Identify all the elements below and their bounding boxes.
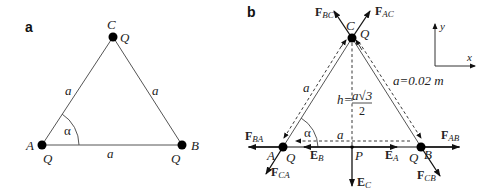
charge-c [109, 33, 118, 42]
charge-b-label: Q [171, 151, 181, 166]
height-label: h= [337, 92, 352, 107]
force-bc-label: FBC [315, 5, 335, 20]
point-p [350, 145, 354, 149]
side-bc-label: a [152, 83, 159, 98]
side-ac [42, 37, 113, 145]
panel-a: a α A Q C Q B Q a a a [25, 17, 199, 166]
y-axis-label: y [439, 20, 445, 32]
height-numerator: a√3 [352, 88, 373, 103]
charge-c [348, 34, 357, 43]
charge-a-label: Q [43, 151, 53, 166]
side-ac-label: a [65, 83, 72, 98]
height-denominator: 2 [359, 104, 365, 118]
field-ea-label: EA [385, 148, 399, 163]
angle-alpha-label: α [64, 123, 71, 138]
vertex-b-label: B [191, 138, 199, 153]
panel-b: b α C Q A [245, 4, 475, 190]
force-ab-label: FAB [441, 128, 460, 143]
vertex-a-label: A [25, 138, 34, 153]
vertex-a-label: A [266, 148, 275, 163]
panel-a-label: a [25, 19, 33, 35]
side-left-label: a [303, 80, 310, 95]
triangle-abc [42, 37, 182, 145]
force-ba-label: FBA [245, 129, 264, 144]
side-bc [113, 37, 182, 145]
coordinate-axes: y x [435, 20, 475, 66]
charge-b [178, 141, 187, 150]
panel-b-label: b [247, 4, 256, 20]
point-p-label: P [354, 148, 363, 163]
charge-c-label: Q [120, 30, 130, 45]
force-ca-label: FCA [271, 165, 290, 180]
force-cb-label: FCB [417, 168, 436, 183]
side-ab-label: a [107, 146, 114, 161]
force-ac-label: FAC [375, 4, 395, 19]
charge-a-label: Q [286, 150, 296, 165]
charge-b-label: Q [409, 150, 419, 165]
angle-alpha-label: α [304, 125, 311, 140]
dashed-arrow-ca [284, 42, 344, 138]
vertex-c-label: C [107, 17, 116, 32]
side-right-label: a=0.02 m [393, 73, 444, 88]
field-ec-label: EC [357, 175, 372, 190]
vertex-c-label: C [346, 18, 355, 33]
dashed-arrow-ac-head [341, 40, 346, 47]
field-eb-label: EB [310, 148, 324, 163]
charge-c-label: Q [360, 26, 370, 41]
charge-a [38, 141, 47, 150]
x-axis-label: x [466, 51, 472, 63]
vertex-b-label: B [424, 147, 432, 162]
diagram: a α A Q C Q B Q a a a b [0, 0, 491, 190]
side-bottom-label: a [337, 127, 344, 142]
